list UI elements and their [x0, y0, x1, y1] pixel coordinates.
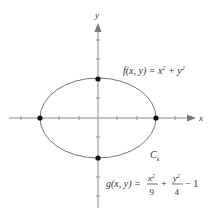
x-axis-label: x — [198, 113, 203, 123]
svg-text:g(x, y) =: g(x, y) = — [106, 178, 141, 190]
point-bottom — [95, 155, 100, 160]
svg-text:4: 4 — [175, 187, 180, 197]
point-top — [95, 76, 100, 81]
y-axis-arrow-icon — [95, 23, 102, 32]
curve-label: Ck — [150, 149, 160, 162]
svg-text:y2: y2 — [172, 173, 180, 183]
x-axis — [9, 115, 196, 122]
point-right — [153, 115, 158, 120]
diagram-canvas: x y f(x, y) = x2 + y2 Ck g(x, y) = x2 9 … — [0, 0, 214, 213]
svg-text:− 1: − 1 — [185, 178, 198, 189]
point-left — [37, 115, 42, 120]
x-axis-arrow-icon — [187, 115, 196, 122]
svg-text:+: + — [161, 178, 167, 189]
f-equation: f(x, y) = x2 + y2 — [123, 65, 185, 77]
y-axis-label: y — [94, 10, 99, 20]
svg-text:x2: x2 — [147, 173, 155, 183]
y-axis — [95, 23, 102, 208]
svg-text:9: 9 — [150, 187, 155, 197]
g-equation: g(x, y) = x2 9 + y2 4 − 1 — [106, 173, 198, 197]
